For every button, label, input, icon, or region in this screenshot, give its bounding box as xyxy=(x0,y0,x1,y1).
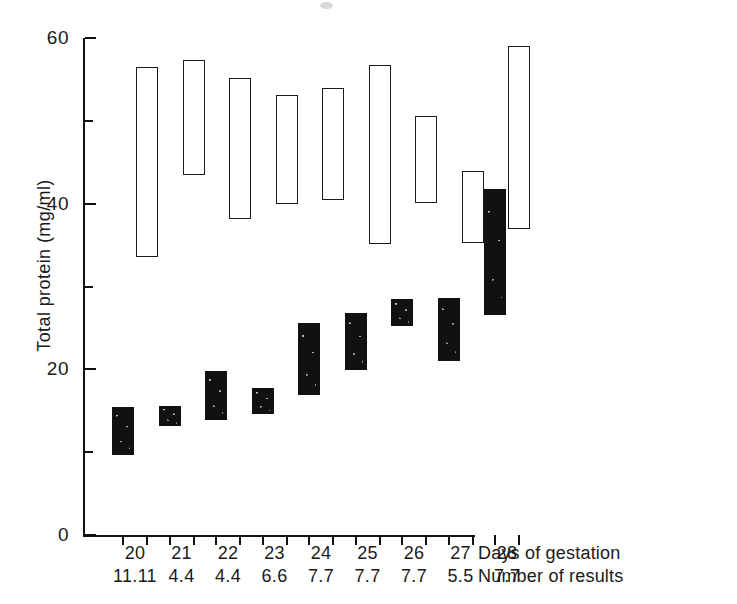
range-bar-filled-day-27 xyxy=(438,298,460,361)
range-bar-open-day-25 xyxy=(369,65,391,245)
y-tick-label: 20 xyxy=(31,359,69,378)
range-bar-open-day-28 xyxy=(508,46,530,228)
range-bar-filled-day-23 xyxy=(252,388,274,414)
range-bar-open-day-20 xyxy=(136,67,158,257)
x-label-results-22: 4.4 xyxy=(205,566,251,586)
range-bar-filled-day-20 xyxy=(112,407,134,455)
y-axis-line xyxy=(83,38,85,537)
y-tick-label-wrap: 0 xyxy=(0,525,83,544)
x-label-day-20: 20 xyxy=(112,543,158,563)
y-tick-minor-30 xyxy=(85,286,93,288)
y-tick-label: 40 xyxy=(31,194,69,213)
x-label-day-23: 23 xyxy=(252,543,298,563)
x-label-day-25: 25 xyxy=(345,543,391,563)
y-tick-label: 0 xyxy=(31,525,69,544)
range-bar-open-day-23 xyxy=(276,95,298,204)
x-label-day-24: 24 xyxy=(298,543,344,563)
y-tick-major-40 xyxy=(85,203,96,205)
range-bar-filled-day-28 xyxy=(484,189,506,316)
x-label-results-25: 7.7 xyxy=(345,566,391,586)
x-label-day-27: 27 xyxy=(438,543,484,563)
y-tick-major-60 xyxy=(85,37,96,39)
y-tick-minor-50 xyxy=(85,120,93,122)
x-label-results-24: 7.7 xyxy=(298,566,344,586)
x-axis-title-results: Number of results xyxy=(478,566,623,587)
chart-figure: Total protein (mg/ml) 0204060 2011.11214… xyxy=(0,0,737,604)
range-bar-filled-day-25 xyxy=(345,313,367,370)
range-bar-open-day-22 xyxy=(229,78,251,220)
x-label-results-21: 4.4 xyxy=(159,566,205,586)
x-label-day-21: 21 xyxy=(159,543,205,563)
y-tick-minor-10 xyxy=(85,451,93,453)
range-bar-filled-day-22 xyxy=(205,371,227,420)
x-label-day-26: 26 xyxy=(391,543,437,563)
x-label-results-26: 7.7 xyxy=(391,566,437,586)
y-tick-label: 60 xyxy=(31,28,69,47)
range-bar-open-day-26 xyxy=(415,116,437,203)
range-bar-open-day-27 xyxy=(462,171,484,244)
y-tick-label-wrap: 40 xyxy=(0,194,83,213)
x-label-results-23: 6.6 xyxy=(252,566,298,586)
y-axis-title: Total protein (mg/ml) xyxy=(34,136,55,396)
x-axis-title-days: Days of gestation xyxy=(478,543,620,564)
y-tick-label-wrap: 60 xyxy=(0,28,83,47)
range-bar-filled-day-21 xyxy=(159,406,181,427)
range-bar-filled-day-24 xyxy=(298,323,320,395)
x-label-results-27: 5.5 xyxy=(438,566,484,586)
y-tick-label-wrap: 20 xyxy=(0,359,83,378)
range-bar-open-day-24 xyxy=(322,88,344,200)
scan-artifact xyxy=(320,2,333,9)
range-bar-open-day-21 xyxy=(183,60,205,175)
y-tick-major-0 xyxy=(85,534,96,536)
x-axis-line xyxy=(83,535,475,537)
y-tick-major-20 xyxy=(85,368,96,370)
range-bar-filled-day-26 xyxy=(391,299,413,326)
x-label-results-20: 11.11 xyxy=(112,566,158,586)
x-label-day-22: 22 xyxy=(205,543,251,563)
